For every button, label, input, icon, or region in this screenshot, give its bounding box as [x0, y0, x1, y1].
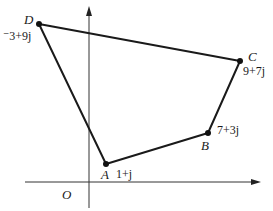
point-d-name: D [24, 13, 33, 26]
imaginary-axis-arrow-icon [86, 6, 92, 16]
point-b-value: 7+3j [217, 124, 239, 136]
point-c-name: C [248, 50, 257, 63]
point-d-value: ⁻3+9j [3, 30, 31, 42]
argand-diagram: O A 1+j B 7+3j C 9+7j D ⁻3+9j [0, 0, 273, 211]
quadrilateral-abcd [39, 24, 240, 164]
point-b-name: B [201, 139, 209, 152]
point-a-value: 1+j [116, 168, 132, 180]
point-b [205, 130, 211, 136]
diagram-canvas [0, 0, 273, 211]
origin-label: O [62, 188, 71, 201]
real-axis-arrow-icon [251, 179, 261, 185]
point-c-value: 9+7j [243, 65, 265, 77]
point-d [36, 21, 42, 27]
point-a-name: A [101, 168, 109, 181]
